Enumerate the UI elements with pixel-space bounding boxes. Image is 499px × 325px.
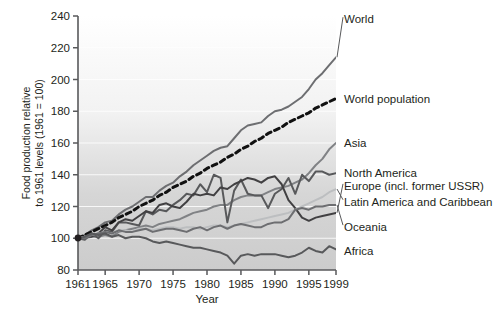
- y-axis-title-line2: to 1961 levels (1961 = 100): [33, 79, 45, 207]
- x-tick-label: 1985: [228, 278, 254, 290]
- series-label-africa: Africa: [344, 245, 374, 257]
- y-tick-label: 140: [51, 169, 70, 181]
- y-tick-label: 80: [57, 264, 70, 276]
- y-tick-label: 160: [51, 137, 70, 149]
- x-tick-label: 1970: [126, 278, 152, 290]
- y-axis-ticks: 80100120140160180200220240: [51, 10, 78, 276]
- series-labels: WorldWorld populationAsiaNorth AmericaEu…: [344, 13, 492, 257]
- chart-container: 80100120140160180200220240 1961196519701…: [0, 0, 499, 325]
- x-tick-label: 1965: [92, 278, 118, 290]
- series-label-europe-incl-former-ussr: Europe (incl. former USSR): [344, 180, 484, 192]
- y-tick-label: 120: [51, 201, 70, 213]
- x-axis-title: Year: [195, 293, 218, 305]
- y-axis-title-line1: Food production relative: [20, 87, 32, 200]
- y-tick-label: 200: [51, 74, 70, 86]
- y-tick-label: 180: [51, 105, 70, 117]
- series-label-north-america: North America: [344, 167, 417, 179]
- series-label-world: World: [344, 13, 374, 25]
- x-tick-label: 1995: [296, 278, 322, 290]
- x-tick-label: 1961: [65, 278, 91, 290]
- y-tick-label: 240: [51, 10, 70, 22]
- leader-line: [337, 205, 343, 225]
- x-tick-label: 1990: [262, 278, 288, 290]
- y-tick-label: 220: [51, 42, 70, 54]
- y-axis-title: Food production relative to 1961 levels …: [20, 79, 45, 207]
- x-tick-label: 1980: [194, 278, 220, 290]
- label-leader-lines: [337, 17, 343, 225]
- series-label-asia: Asia: [344, 137, 367, 149]
- leader-line: [337, 17, 343, 57]
- food-production-line-chart: 80100120140160180200220240 1961196519701…: [0, 0, 499, 325]
- series-label-world-population: World population: [344, 93, 430, 105]
- series-label-latin-america-and-caribbean: Latin America and Caribbean: [344, 196, 492, 208]
- origin-marker: [75, 235, 82, 242]
- x-tick-label: 1975: [160, 278, 186, 290]
- y-tick-label: 100: [51, 232, 70, 244]
- series-label-oceania: Oceania: [344, 221, 387, 233]
- x-tick-label: 1999: [323, 278, 349, 290]
- x-axis-ticks: 196119651970197519801985199019951999: [65, 270, 349, 290]
